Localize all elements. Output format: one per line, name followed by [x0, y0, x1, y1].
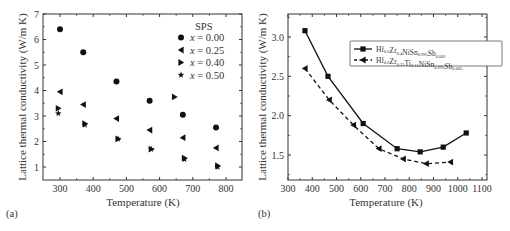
x-tick-label: 1000 — [448, 183, 468, 194]
x-tick-label: 300 — [53, 183, 68, 194]
x-tick-label: 700 — [378, 183, 393, 194]
x-tick-label: 700 — [185, 183, 200, 194]
series-000-marker — [213, 124, 219, 130]
y-tick-label: 3.0 — [272, 32, 285, 43]
x-tick-label: 800 — [402, 183, 417, 194]
series-025-marker — [57, 88, 63, 95]
figure: 3004005006007008001234567 SPSx = 0.00x =… — [0, 0, 510, 231]
legend-entry: x = 0.25 — [189, 45, 224, 56]
series-0-marker — [441, 145, 446, 150]
series-025-marker — [180, 134, 186, 141]
x-axis-label-b: Temperature (K) — [349, 196, 423, 209]
legend-2-marker — [178, 59, 184, 66]
y-tick-label: 7 — [34, 9, 39, 20]
series-1-marker — [423, 160, 429, 167]
legend-entry: x = 0.40 — [189, 57, 224, 68]
x-tick-label: 500 — [329, 183, 344, 194]
legend-entry: x = 0.00 — [189, 32, 224, 43]
legend-entry: x = 0.50 — [189, 70, 224, 81]
y-tick-label: 2.5 — [272, 71, 285, 82]
series-1-marker — [447, 159, 453, 166]
series-1-marker — [302, 65, 308, 72]
legend-b-0-marker — [360, 46, 365, 51]
series-0-marker — [418, 149, 423, 154]
series-000-marker — [147, 98, 153, 104]
series-0-marker — [302, 28, 307, 33]
x-tick-label: 600 — [152, 183, 167, 194]
series-000-marker — [180, 112, 186, 118]
y-tick-label: 1.5 — [272, 150, 285, 161]
y-tick-label: 2 — [34, 136, 39, 147]
y-tick-label: 5 — [34, 60, 39, 71]
panel-label-b: (b) — [258, 208, 271, 220]
legend-title: SPS — [195, 21, 213, 32]
legend-0-marker — [178, 35, 184, 41]
series-0-marker — [395, 146, 400, 151]
x-tick-label: 900 — [426, 183, 441, 194]
series-0-marker — [361, 121, 366, 126]
x-tick-label: 800 — [219, 183, 234, 194]
series-000-marker — [80, 49, 86, 55]
series-1-marker — [400, 156, 406, 163]
x-tick-label: 400 — [86, 183, 101, 194]
series-0-marker — [325, 74, 330, 79]
series-040-marker — [172, 93, 178, 100]
chart-panel-a: 3004005006007008001234567 SPSx = 0.00x =… — [6, 9, 242, 221]
series-000-marker — [57, 26, 63, 32]
series-000-marker — [113, 79, 119, 85]
x-tick-label: 1100 — [472, 183, 492, 194]
series-025-marker — [113, 115, 119, 122]
x-tick-label: 600 — [353, 183, 368, 194]
y-tick-label: 2.0 — [272, 110, 285, 121]
legend-3-marker — [178, 72, 184, 78]
legend-1-marker — [178, 47, 184, 54]
chart-panel-b: 300400500600700800900100011001.52.02.53.… — [256, 13, 502, 220]
y-axis-label-a: Lattice thermal conductivity (W/m K) — [16, 13, 29, 181]
x-axis-label-a: Temperature (K) — [106, 196, 180, 209]
series-025-marker — [80, 101, 86, 108]
y-tick-label: 4 — [34, 85, 39, 96]
y-axis-label-b: Lattice thermal conductivity (W/m K) — [256, 13, 269, 181]
series-025-marker — [146, 127, 152, 134]
series-040-marker — [56, 105, 62, 112]
legend-b: Hf0.6Zr0.4NiSn0.995Sb0.005Hf0.6Zr0.25Ti0… — [350, 41, 502, 71]
panel-label-a: (a) — [6, 208, 18, 220]
y-tick-label: 3 — [34, 111, 39, 122]
x-tick-label: 400 — [305, 183, 320, 194]
series-0-marker — [464, 130, 469, 135]
legend-a: SPSx = 0.00x = 0.25x = 0.40x = 0.50 — [178, 21, 224, 81]
x-tick-label: 300 — [281, 183, 296, 194]
x-tick-label: 500 — [119, 183, 134, 194]
series-025-marker — [213, 144, 219, 151]
plot-frame-b — [288, 14, 487, 180]
y-tick-label: 1 — [34, 162, 39, 173]
y-tick-label: 6 — [34, 34, 39, 45]
